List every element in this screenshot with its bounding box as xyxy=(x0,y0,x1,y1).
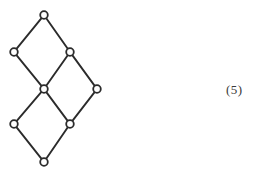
graph-edge xyxy=(16,55,41,86)
figure-label: (5) xyxy=(226,82,243,98)
graph-node xyxy=(93,85,101,93)
graph-node xyxy=(10,48,18,56)
node-layer xyxy=(10,11,101,166)
graph-edge xyxy=(46,127,68,159)
graph-edge xyxy=(46,18,68,49)
graph-edge xyxy=(46,92,68,121)
graph-edge xyxy=(46,55,68,86)
graph-node xyxy=(40,158,48,166)
graph-edge xyxy=(72,55,95,86)
graph-node xyxy=(66,48,74,56)
lattice-graph-canvas xyxy=(0,0,261,176)
edge-layer xyxy=(16,18,95,159)
graph-edge xyxy=(72,92,95,121)
graph-edge xyxy=(16,18,41,49)
graph-node xyxy=(66,120,74,128)
graph-edge xyxy=(16,92,41,122)
graph-edge xyxy=(16,127,42,159)
graph-node xyxy=(40,11,48,19)
lattice-figure: (5) xyxy=(0,0,261,176)
graph-node xyxy=(10,120,18,128)
graph-node xyxy=(40,85,48,93)
